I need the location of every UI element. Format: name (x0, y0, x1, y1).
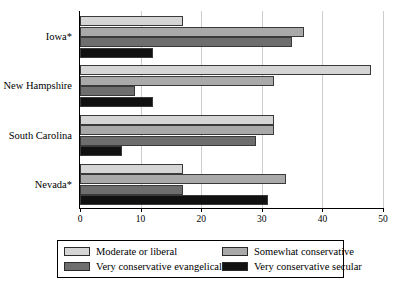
x-axis-tick-label: 20 (196, 214, 206, 224)
legend-label: Very conservative secular (254, 261, 362, 273)
bar-group (80, 16, 383, 60)
bar (80, 76, 274, 86)
legend-label: Moderate or liberal (96, 246, 177, 258)
x-axis-tick (80, 208, 81, 212)
bar (80, 195, 268, 205)
legend-swatch (222, 262, 248, 271)
category-label: New Hampshire (3, 80, 72, 91)
x-axis-tick (141, 208, 142, 212)
bar-group (80, 65, 383, 109)
bar (80, 146, 122, 156)
x-axis-tick (383, 208, 384, 212)
bar (80, 37, 292, 47)
bar (80, 174, 286, 184)
bar (80, 115, 274, 125)
bar-chart: Iowa*New HampshireSouth CarolinaNevada* … (0, 0, 401, 285)
legend-item: Very conservative evangelical (64, 261, 222, 273)
legend: Moderate or liberalSomewhat conservative… (57, 240, 344, 278)
legend-grid: Moderate or liberalSomewhat conservative… (58, 241, 343, 277)
x-axis-tick-label: 40 (318, 214, 328, 224)
bar (80, 16, 183, 26)
plot-area: Iowa*New HampshireSouth CarolinaNevada* … (0, 0, 401, 230)
gridline (383, 11, 384, 208)
x-axis-tick-label: 50 (378, 214, 388, 224)
bar (80, 48, 153, 58)
legend-item: Somewhat conservative (222, 246, 362, 258)
x-axis-tick-label: 0 (78, 214, 83, 224)
legend-label: Somewhat conservative (254, 246, 354, 258)
bar (80, 164, 183, 174)
category-label: Iowa* (46, 31, 72, 42)
axis-area: 01020304050 (80, 11, 383, 208)
x-axis-tick-label: 10 (136, 214, 146, 224)
x-axis-line (79, 208, 383, 209)
bar (80, 86, 135, 96)
legend-swatch (64, 247, 90, 256)
bar (80, 65, 371, 75)
bar (80, 97, 153, 107)
x-axis-tick-label: 30 (257, 214, 267, 224)
legend-swatch (64, 262, 90, 271)
category-label: South Carolina (9, 130, 72, 141)
bar (80, 185, 183, 195)
category-axis-labels: Iowa*New HampshireSouth CarolinaNevada* (0, 11, 76, 208)
legend-swatch (222, 247, 248, 256)
legend-item: Moderate or liberal (64, 246, 222, 258)
x-axis-tick (322, 208, 323, 212)
legend-label: Very conservative evangelical (96, 261, 222, 273)
category-label: Nevada* (35, 179, 72, 190)
x-axis-tick (262, 208, 263, 212)
x-axis-tick (201, 208, 202, 212)
bar (80, 136, 256, 146)
bar-group (80, 115, 383, 159)
bar (80, 125, 274, 135)
bar-group (80, 164, 383, 208)
bar (80, 27, 304, 37)
legend-item: Very conservative secular (222, 261, 362, 273)
